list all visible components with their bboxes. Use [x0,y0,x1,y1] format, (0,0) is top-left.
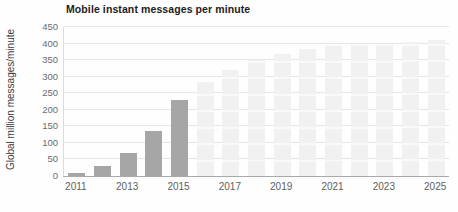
bar-2016 [197,82,214,176]
y-tick-label-400: 400 [28,39,58,49]
bar-2017 [222,70,239,176]
plot-area [63,27,449,177]
bar-2015 [171,100,188,176]
x-tick-label-2019: 2019 [270,181,292,192]
y-tick-label-100: 100 [28,138,58,148]
x-tick-label-2025: 2025 [424,181,446,192]
bar-2012 [94,166,111,176]
bar-2020 [299,49,316,176]
y-axis-title: Global million messages/minute [5,18,16,182]
y-tick-label-150: 150 [28,121,58,131]
gridline-450 [64,26,449,27]
x-axis-ticks: 20112013201520172019202120232025 [63,181,448,195]
x-tick-label-2021: 2021 [321,181,343,192]
bar-2024 [402,42,419,176]
x-tick-label-2015: 2015 [167,181,189,192]
y-tick-label-350: 350 [28,55,58,65]
y-axis-ticks: 050100150200250300350400450 [28,27,58,176]
bar-2018 [248,60,265,176]
bar-2021 [325,45,342,176]
bar-2014 [145,131,162,176]
bar-2023 [376,44,393,176]
y-tick-label-200: 200 [28,105,58,115]
chart: Mobile instant messages per minute Globa… [0,0,458,212]
chart-title: Mobile instant messages per minute [66,3,250,15]
y-tick-label-250: 250 [28,88,58,98]
y-tick-label-450: 450 [28,22,58,32]
bar-2022 [351,44,368,176]
bar-2011 [68,173,85,176]
bar-2019 [274,54,291,177]
x-tick-label-2013: 2013 [116,181,138,192]
x-tick-label-2023: 2023 [373,181,395,192]
bar-2025 [428,40,445,176]
bar-2013 [120,153,137,176]
y-tick-label-0: 0 [28,171,58,181]
x-tick-label-2011: 2011 [65,181,87,192]
x-tick-label-2017: 2017 [219,181,241,192]
y-tick-label-50: 50 [28,154,58,164]
y-tick-label-300: 300 [28,72,58,82]
